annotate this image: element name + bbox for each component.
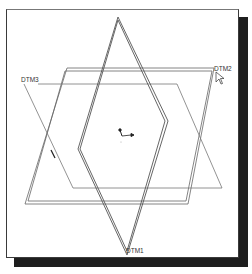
datum-label-dtm3[interactable]: DTM3: [21, 76, 39, 83]
datum-planes-scene[interactable]: DTM3 DTM2 DTM1: [0, 0, 252, 274]
coordinate-system-icon: [119, 129, 134, 143]
datum-label-dtm1[interactable]: DTM1: [126, 247, 144, 254]
datum-plane-dtm2[interactable]: [25, 68, 214, 204]
direction-arrow-icon: [51, 150, 55, 158]
mouse-cursor-icon: [216, 72, 224, 84]
datum-label-dtm2[interactable]: DTM2: [214, 65, 232, 72]
